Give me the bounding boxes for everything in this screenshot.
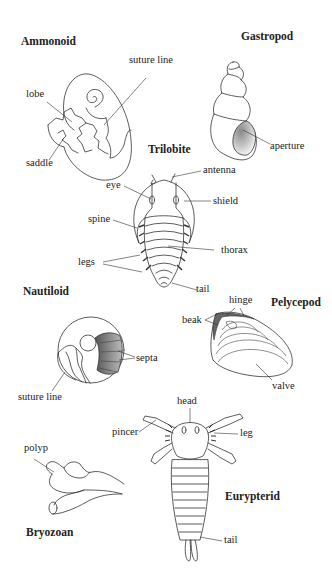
ammonoid-drawing: [47, 74, 146, 180]
ammonoid-lobe-label: lobe: [26, 88, 44, 99]
trilobite-spine-label: spine: [88, 213, 110, 224]
nautiloid-suture-line-label: suture line: [18, 391, 62, 402]
trilobite-tail-label: tail: [196, 283, 209, 294]
pelycepod-valve-label: valve: [272, 380, 295, 391]
gastropod-aperture-label: aperture: [270, 140, 304, 151]
pelycepod-drawing: [205, 308, 292, 380]
bryozoan-drawing: [34, 459, 124, 514]
eurypterid-tail-label: tail: [224, 534, 237, 545]
bryozoan-polyp-label: polyp: [24, 442, 48, 453]
eurypterid-leg-label: leg: [240, 427, 253, 438]
trilobite-shield-label: shield: [213, 195, 238, 206]
ammonoid-saddle-label: saddle: [26, 157, 53, 168]
trilobite-legs-label: legs: [78, 256, 95, 267]
eurypterid-title: Eurypterid: [225, 490, 280, 502]
trilobite-thorax-label: thorax: [221, 244, 248, 255]
nautiloid-title: Nautiloid: [23, 285, 69, 297]
eurypterid-head-label: head: [177, 395, 197, 406]
trilobite-title: Trilobite: [148, 143, 191, 155]
bryozoan-title: Bryozoan: [26, 526, 73, 538]
nautiloid-drawing: [52, 317, 135, 391]
pelycepod-hinge-label: hinge: [229, 294, 252, 305]
pelycepod-beak-label: beak: [182, 314, 202, 325]
ammonoid-title: Ammonoid: [21, 35, 76, 47]
nautiloid-septa-label: septa: [136, 352, 158, 363]
ammonoid-suture-line-label: suture line: [129, 54, 173, 65]
eurypterid-pincer-label: pincer: [112, 426, 138, 437]
gastropod-drawing: [211, 62, 270, 160]
gastropod-title: Gastropod: [241, 30, 293, 42]
trilobite-antenna-label: antenna: [203, 164, 236, 175]
trilobite-eye-label: eye: [106, 179, 121, 190]
pelycepod-title: Pelycepod: [271, 296, 321, 308]
